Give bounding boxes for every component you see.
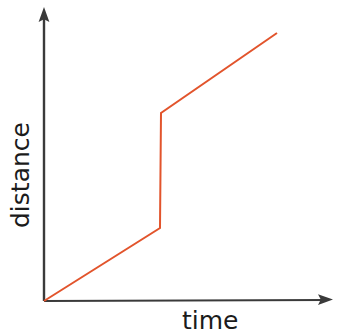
plot-canvas [0,0,337,336]
distance-time-graph-figure: distance time [0,0,337,336]
y-axis-label: distance [8,122,33,228]
x-axis-label: time [182,308,238,333]
x-axis-line [44,300,326,301]
axes-group [39,7,333,305]
distance-time-curve [44,33,277,301]
